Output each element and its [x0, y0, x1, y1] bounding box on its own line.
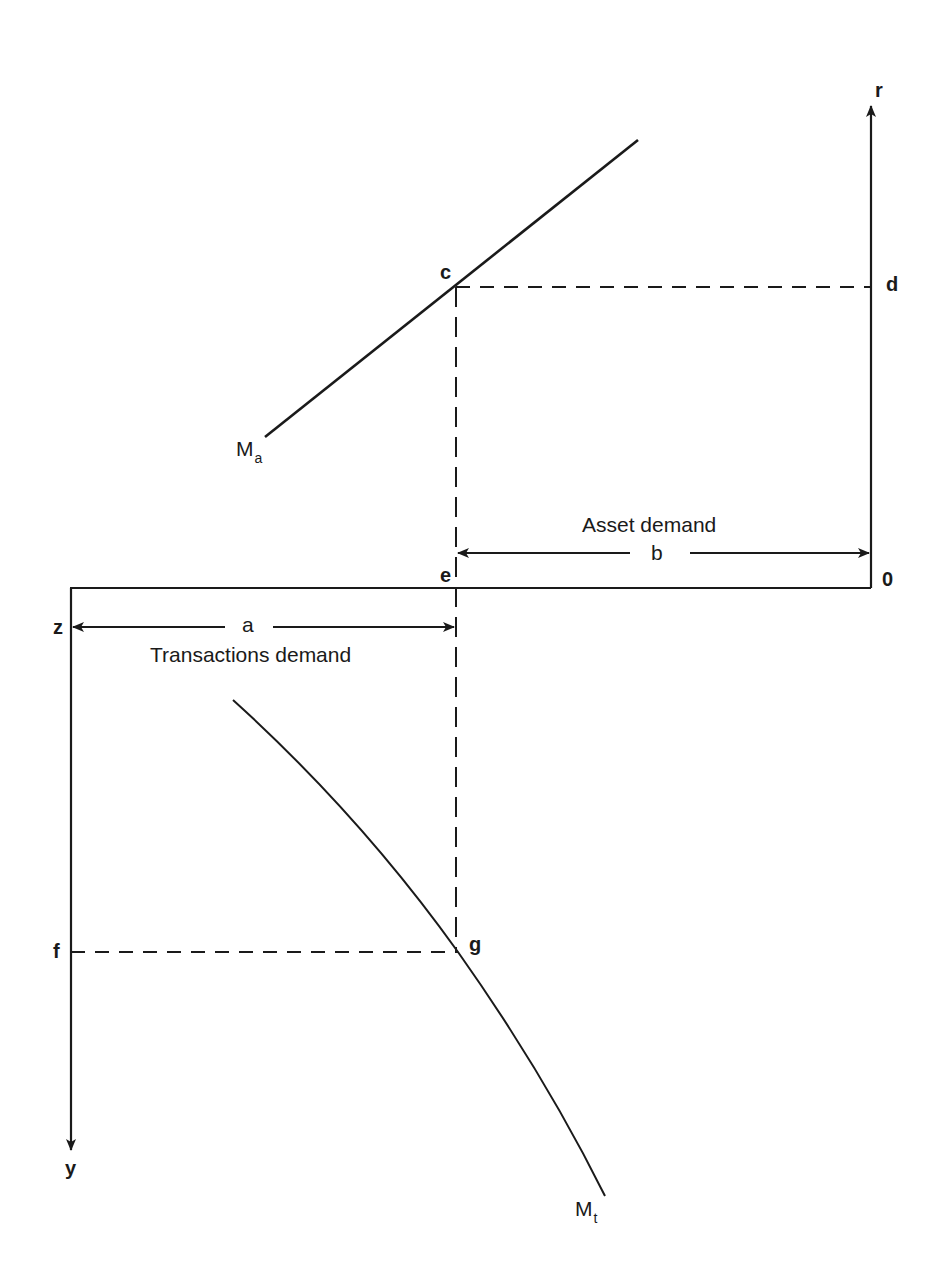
label-ma: Ma	[236, 438, 262, 459]
label-d: d	[886, 274, 898, 294]
transactions-demand-curve	[233, 700, 605, 1196]
transactions-span-letter-a: a	[242, 614, 254, 635]
label-g: g	[469, 934, 481, 954]
asset-span-letter-b: b	[651, 542, 663, 563]
label-c: c	[440, 262, 451, 282]
ma-main: M	[236, 437, 254, 460]
asset-demand-curve	[265, 140, 638, 437]
asset-demand-caption: Asset demand	[582, 514, 716, 535]
money-demand-diagram	[0, 0, 949, 1280]
label-f: f	[53, 941, 60, 961]
label-mt: Mt	[575, 1198, 597, 1219]
transactions-demand-caption: Transactions demand	[150, 644, 351, 665]
mt-main: M	[575, 1197, 593, 1220]
label-0: 0	[882, 569, 893, 589]
label-r: r	[875, 80, 883, 100]
label-z: z	[53, 617, 63, 637]
mt-subscript: t	[594, 1210, 598, 1226]
label-e: e	[440, 565, 451, 585]
ma-subscript: a	[255, 450, 263, 466]
label-y: y	[65, 1158, 76, 1178]
